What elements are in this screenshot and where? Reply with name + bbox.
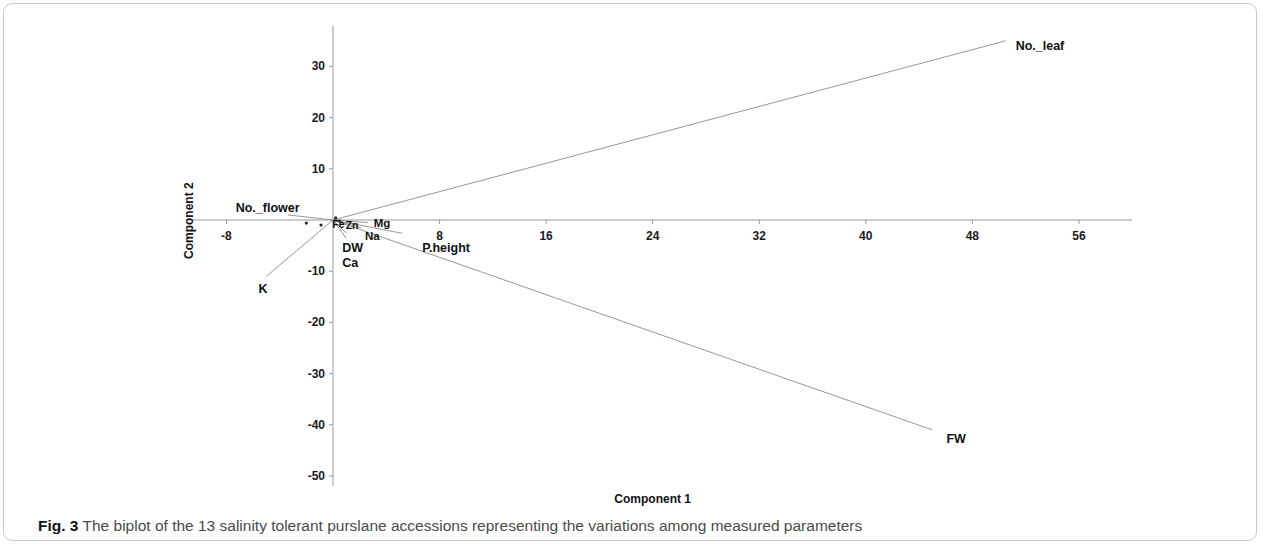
biplot-vector bbox=[288, 215, 333, 220]
vector-label: No._flower bbox=[236, 201, 300, 215]
x-tick-label: 24 bbox=[646, 229, 659, 243]
vector-label: DW bbox=[342, 241, 363, 255]
vector-label: P.height bbox=[422, 241, 470, 255]
y-tick-label: 20 bbox=[293, 111, 325, 125]
figure-caption: Fig. 3 The biplot of the 13 salinity tol… bbox=[38, 516, 1218, 535]
x-tick-label: 32 bbox=[753, 229, 766, 243]
x-tick-label: -8 bbox=[221, 229, 232, 243]
score-point bbox=[319, 224, 322, 227]
score-point bbox=[305, 221, 308, 224]
vector-label: Fe bbox=[332, 218, 344, 230]
vector-label: Zn bbox=[346, 219, 359, 231]
biplot-vector bbox=[333, 41, 1006, 220]
y-tick-label: -50 bbox=[293, 469, 325, 483]
vector-label: Ca bbox=[342, 256, 358, 270]
vector-label: FW bbox=[946, 432, 965, 446]
x-tick-label: 16 bbox=[539, 229, 552, 243]
x-tick-label: 48 bbox=[966, 229, 979, 243]
x-tick-label: 56 bbox=[1072, 229, 1085, 243]
vector-label: Na bbox=[365, 230, 380, 242]
y-tick-label: -10 bbox=[293, 264, 325, 278]
y-tick-label: -30 bbox=[293, 367, 325, 381]
vector-label: Mg bbox=[374, 217, 391, 229]
vector-label: K bbox=[258, 282, 267, 296]
x-tick-label: 40 bbox=[859, 229, 872, 243]
biplot-figure: -88162432404856302010-10-20-30-40-50 No.… bbox=[4, 4, 1263, 509]
figure-card: -88162432404856302010-10-20-30-40-50 No.… bbox=[3, 3, 1257, 541]
y-tick-label: 30 bbox=[293, 59, 325, 73]
x-axis-title: Component 1 bbox=[614, 492, 691, 506]
figure-caption-text: The biplot of the 13 salinity tolerant p… bbox=[83, 517, 863, 534]
figure-number: Fig. 3 bbox=[38, 517, 78, 534]
y-tick-label: -40 bbox=[293, 418, 325, 432]
y-tick-label: -20 bbox=[293, 315, 325, 329]
y-axis-title: Component 2 bbox=[182, 182, 196, 259]
y-tick-label: 10 bbox=[293, 162, 325, 176]
vector-label: No._leaf bbox=[1016, 39, 1065, 53]
